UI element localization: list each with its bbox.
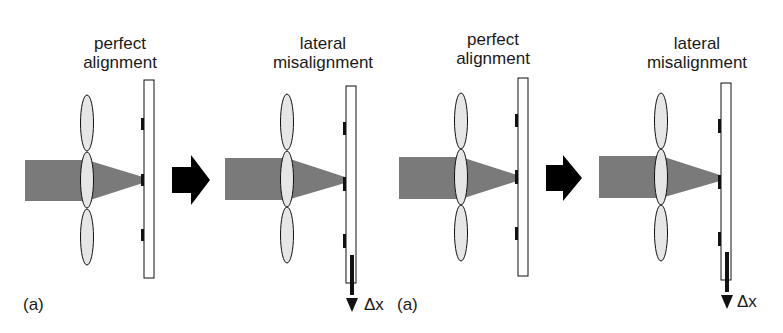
panel-tag: (a) [23, 295, 44, 315]
alignment-mark [718, 232, 721, 246]
lens-top [281, 94, 294, 150]
lens-top [81, 95, 94, 151]
panel-tag: (a) [397, 295, 418, 315]
panel-title: perfect alignment [75, 34, 165, 72]
alignment-mark [141, 174, 144, 186]
alignment-mark [343, 177, 346, 191]
lens-top [455, 93, 468, 149]
substrate-plate [144, 80, 154, 278]
panel-perfect-alignment-2 [399, 78, 528, 276]
lens-bottom [281, 207, 294, 263]
alignment-mark [515, 114, 518, 127]
lens-bottom [81, 209, 94, 265]
shift-bar [350, 255, 354, 295]
panel-lateral-misalignment-2 [599, 83, 733, 309]
lens-bottom [455, 205, 468, 261]
alignment-mark [141, 229, 144, 241]
right-arrow-icon [172, 155, 210, 205]
substrate-plate [721, 83, 731, 280]
alignment-mark [343, 122, 346, 135]
substrate-plate [346, 86, 356, 283]
alignment-mark [141, 118, 144, 130]
down-arrow-icon [721, 295, 733, 309]
lens-middle [81, 152, 94, 208]
right-arrow-icon [546, 155, 582, 201]
alignment-mark [343, 234, 346, 248]
panel-perfect-alignment-1 [25, 80, 154, 278]
alignment-mark [515, 170, 518, 184]
delta-x-label: Δx [737, 292, 757, 312]
alignment-mark [718, 175, 721, 189]
delta-x-label: Δx [364, 295, 384, 315]
panel-lateral-misalignment-1 [225, 86, 358, 312]
shift-bar [725, 252, 729, 292]
substrate-plate [518, 78, 528, 276]
lens-middle [655, 149, 668, 205]
panel-title: perfect alignment [448, 30, 538, 68]
alignment-mark [515, 227, 518, 240]
down-arrow-icon [346, 298, 358, 312]
panel-title: lateral misalignment [637, 34, 757, 72]
lens-middle [281, 151, 294, 207]
panel-title: lateral misalignment [263, 34, 383, 72]
lens-top [655, 93, 668, 149]
lens-middle [455, 149, 468, 205]
alignment-mark [718, 119, 721, 133]
lens-bottom [655, 205, 668, 261]
